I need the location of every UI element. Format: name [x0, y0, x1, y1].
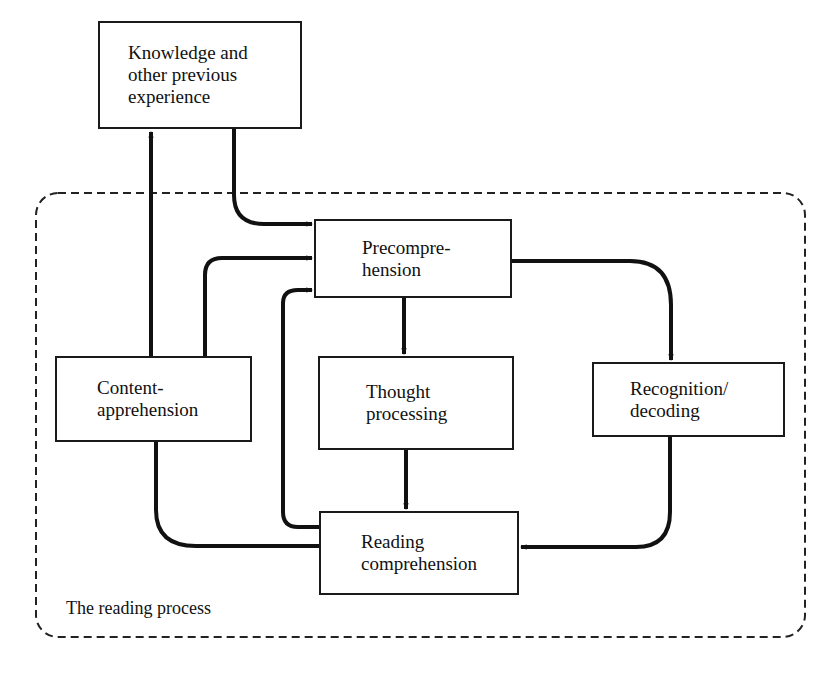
edge-reading-to-precomprehension	[283, 290, 319, 527]
edge-knowledge-to-precomprehension	[234, 128, 312, 224]
node-thought-label: Thought processing	[366, 381, 447, 425]
node-thought-processing: Thought processing	[318, 356, 514, 450]
node-reading-label: Reading comprehension	[361, 531, 477, 575]
node-content-label: Content- apprehension	[97, 377, 198, 421]
node-knowledge-label: Knowledge and other previous experience	[128, 42, 248, 108]
node-precomprehension-label: Precompre- hension	[362, 237, 451, 281]
edge-recognition-to-reading	[521, 436, 670, 547]
edge-content-to-reading	[156, 441, 319, 546]
node-reading-comprehension: Reading comprehension	[319, 511, 519, 595]
edge-content-to-precomprehension	[205, 258, 312, 356]
edge-precomprehension-to-recognition	[511, 261, 671, 360]
node-knowledge: Knowledge and other previous experience	[98, 21, 302, 129]
node-precomprehension: Precompre- hension	[314, 219, 512, 298]
node-recognition-decoding: Recognition/ decoding	[592, 362, 785, 437]
node-recognition-label: Recognition/ decoding	[630, 378, 728, 422]
node-content-apprehension: Content- apprehension	[55, 356, 252, 442]
container-label: The reading process	[66, 598, 211, 619]
